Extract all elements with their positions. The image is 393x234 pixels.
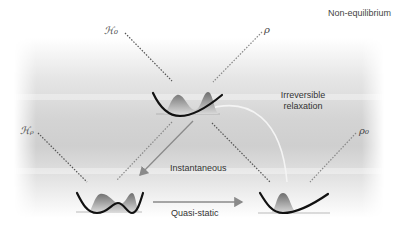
bimodal-distribution: [88, 193, 140, 212]
non-equilibrium-label: Non-equilibrium: [328, 8, 391, 18]
irreversible-relaxation-label: Irreversible relaxation: [268, 90, 338, 112]
rho0-label: ρ₀: [359, 125, 369, 136]
state-bottom-right: [258, 193, 330, 213]
dotted-connector-H0: [125, 33, 172, 81]
diagram-canvas: Non-equilibrium ℋ₀ ρ ℋᵨ ρ₀ Irreversible …: [0, 0, 393, 234]
dotted-connector-rho0: [310, 133, 356, 182]
dotted-connector-H0-to-right: [212, 123, 270, 182]
irreversible-line1: Irreversible: [268, 90, 338, 101]
irreversible-line2: relaxation: [268, 101, 338, 112]
Hrho-label: ℋᵨ: [20, 125, 34, 136]
dotted-connector-rho: [213, 32, 262, 82]
rho-label: ρ: [264, 24, 270, 35]
instantaneous-label: Instantaneous: [170, 163, 227, 173]
state-bottom-left: [76, 193, 143, 213]
quasi-static-label: Quasi-static: [171, 208, 219, 218]
H0-label: ℋ₀: [104, 25, 118, 36]
dotted-connector-Hrho: [38, 133, 87, 182]
state-top: [153, 92, 222, 116]
diagram-graphics: [0, 0, 393, 234]
